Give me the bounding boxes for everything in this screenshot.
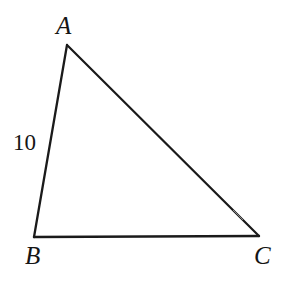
side-bc-line (34, 236, 259, 237)
figure-background (0, 0, 293, 284)
triangle-drawing (0, 0, 293, 284)
side-length-label-ab: 10 (13, 131, 36, 154)
triangle-figure: A B C 10 (0, 0, 293, 284)
vertex-label-c: C (254, 243, 271, 268)
vertex-label-b: B (25, 243, 40, 268)
vertex-label-a: A (56, 13, 71, 38)
